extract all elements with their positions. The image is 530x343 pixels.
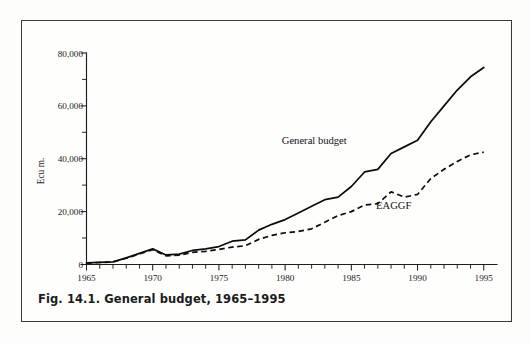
x-axis-ticks xyxy=(87,265,484,271)
x-tick-label-1970: 1970 xyxy=(144,273,163,283)
figure-caption: Fig. 14.1. General budget, 1965–1995 xyxy=(38,292,286,306)
x-tick-label-1990: 1990 xyxy=(408,273,427,283)
y-tick-label-60000: 60,000 xyxy=(58,101,84,111)
y-axis-title: Ecu m. xyxy=(36,158,46,185)
series-label-general-budget: General budget xyxy=(282,135,347,146)
x-tick-label-1995: 1995 xyxy=(475,273,494,283)
series-label-eaggf: EAGGF xyxy=(376,200,411,211)
y-tick-label-80000: 80,000 xyxy=(58,49,84,59)
line-chart: Ecu m. 80,000 60,000 40,000 20,000 0 xyxy=(22,21,511,321)
x-tick-label-1965: 1965 xyxy=(77,273,96,283)
x-tick-label-1975: 1975 xyxy=(210,273,229,283)
figure-container: Ecu m. 80,000 60,000 40,000 20,000 0 xyxy=(0,0,530,343)
y-tick-label-40000: 40,000 xyxy=(58,154,84,164)
x-tick-label-1980: 1980 xyxy=(276,273,295,283)
y-tick-label-20000: 20,000 xyxy=(58,207,84,217)
x-tick-label-1985: 1985 xyxy=(342,273,361,283)
series-line-eaggf xyxy=(87,152,484,263)
y-axis-major-ticks xyxy=(81,53,87,265)
figure-frame: Ecu m. 80,000 60,000 40,000 20,000 0 xyxy=(21,20,512,322)
x-axis-tick-labels: 1965197019751980198519901995 xyxy=(77,273,493,283)
